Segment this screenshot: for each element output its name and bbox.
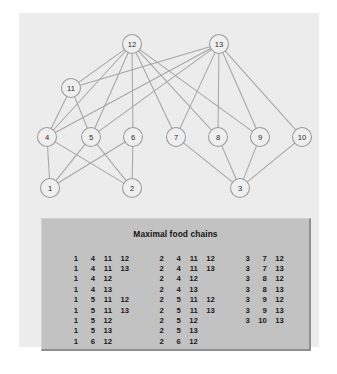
chain-cell: 12 — [99, 274, 112, 283]
chain-cell: 2 — [151, 264, 164, 273]
chain-cell: 11 — [99, 264, 112, 273]
chain-cell: 1 — [65, 264, 78, 273]
chain-row: 2413 — [151, 284, 237, 294]
chain-cell: 2 — [151, 285, 164, 294]
chain-row: 3712 — [237, 253, 309, 263]
chain-cell: 1 — [65, 337, 78, 346]
chains-column-3: 37123713381238133912391331013 — [237, 253, 309, 347]
chain-row: 3713 — [237, 263, 309, 273]
graph-node-label-6: 6 — [131, 133, 135, 142]
graph-edge-9-13 — [223, 53, 256, 129]
graph-node-1[interactable]: 1 — [41, 179, 60, 198]
chain-cell: 8 — [254, 285, 267, 294]
chain-cell: 1 — [65, 316, 78, 325]
chain-cell: 12 — [185, 274, 198, 283]
graph-node-label-9: 9 — [258, 133, 262, 142]
graph-node-label-1: 1 — [48, 184, 52, 193]
graph-node-label-3: 3 — [238, 184, 242, 193]
graph-nodes: 12345678910111213 — [38, 35, 312, 198]
chain-cell: 1 — [65, 254, 78, 263]
chain-cell: 2 — [151, 274, 164, 283]
graph-edge-10-13 — [225, 51, 295, 130]
graph-node-label-8: 8 — [216, 133, 220, 142]
chain-cell: 9 — [254, 306, 267, 315]
chain-row: 141112 — [65, 253, 151, 263]
food-web-graph: 12345678910111213 — [19, 13, 319, 213]
chain-cell: 10 — [254, 316, 267, 325]
chain-cell: 4 — [168, 285, 181, 294]
chain-cell: 12 — [271, 254, 284, 263]
graph-edge-3-9 — [243, 146, 256, 179]
chain-cell: 6 — [82, 337, 95, 346]
table-title: Maximal food chains — [42, 229, 309, 239]
graph-edge-1-6 — [58, 142, 125, 183]
chain-cell: 4 — [82, 274, 95, 283]
chain-row: 3812 — [237, 274, 309, 284]
chain-row: 241113 — [151, 263, 237, 273]
graph-edge-8-13 — [218, 54, 219, 128]
graph-node-2[interactable]: 2 — [123, 179, 142, 198]
chain-columns: 1411121411131412141315111215111315121513… — [42, 253, 309, 347]
chain-cell: 13 — [116, 306, 129, 315]
chain-cell: 12 — [202, 295, 215, 304]
chain-cell: 5 — [168, 316, 181, 325]
chain-cell: 3 — [237, 316, 250, 325]
graph-node-10[interactable]: 10 — [293, 128, 312, 147]
graph-node-9[interactable]: 9 — [251, 128, 270, 147]
chain-cell: 13 — [271, 316, 284, 325]
chain-cell: 12 — [99, 337, 112, 346]
chain-cell: 5 — [82, 326, 95, 335]
chain-cell: 13 — [99, 285, 112, 294]
chain-row: 241112 — [151, 253, 237, 263]
graph-node-7[interactable]: 7 — [167, 128, 186, 147]
chain-cell: 3 — [237, 264, 250, 273]
graph-node-5[interactable]: 5 — [82, 128, 101, 147]
graph-node-4[interactable]: 4 — [38, 128, 57, 147]
chain-cell: 13 — [116, 264, 129, 273]
graph-node-label-11: 11 — [67, 84, 75, 93]
graph-node-8[interactable]: 8 — [209, 128, 228, 147]
chain-cell: 2 — [151, 295, 164, 304]
chain-cell: 12 — [185, 316, 198, 325]
graph-edge-7-12 — [136, 53, 172, 129]
figure-root: 12345678910111213 Maximal food chains 14… — [0, 0, 337, 374]
graph-node-label-10: 10 — [298, 133, 306, 142]
chain-cell: 3 — [237, 285, 250, 294]
chain-cell: 2 — [151, 316, 164, 325]
graph-node-12[interactable]: 12 — [123, 35, 142, 54]
figure-panel: 12345678910111213 Maximal food chains 14… — [19, 13, 319, 347]
chain-cell: 13 — [185, 326, 198, 335]
chain-cell: 13 — [185, 285, 198, 294]
chain-cell: 3 — [237, 306, 250, 315]
chain-cell: 5 — [82, 316, 95, 325]
chain-cell: 11 — [99, 254, 112, 263]
chain-cell: 7 — [254, 254, 267, 263]
graph-edges — [48, 47, 296, 183]
chain-row: 1413 — [65, 284, 151, 294]
chain-cell: 4 — [168, 264, 181, 273]
chain-cell: 12 — [99, 316, 112, 325]
chain-cell: 11 — [185, 254, 198, 263]
chain-row: 151112 — [65, 295, 151, 305]
graph-node-3[interactable]: 3 — [231, 179, 250, 198]
chain-cell: 13 — [271, 306, 284, 315]
chain-cell: 5 — [82, 306, 95, 315]
chain-cell: 1 — [65, 326, 78, 335]
chain-cell: 5 — [168, 326, 181, 335]
chain-cell: 13 — [271, 285, 284, 294]
chain-row: 2512 — [151, 315, 237, 325]
chain-cell: 5 — [168, 306, 181, 315]
graph-node-6[interactable]: 6 — [124, 128, 143, 147]
chain-row: 2513 — [151, 326, 237, 336]
graph-edge-1-4 — [48, 146, 50, 178]
graph-node-11[interactable]: 11 — [62, 79, 81, 98]
chain-cell: 3 — [237, 254, 250, 263]
chain-row: 31013 — [237, 315, 309, 325]
chain-cell: 1 — [65, 285, 78, 294]
chain-cell: 1 — [65, 306, 78, 315]
chain-row: 141113 — [65, 263, 151, 273]
chain-cell: 5 — [168, 295, 181, 304]
chain-cell: 12 — [116, 254, 129, 263]
graph-node-13[interactable]: 13 — [210, 35, 229, 54]
chain-cell: 2 — [151, 306, 164, 315]
